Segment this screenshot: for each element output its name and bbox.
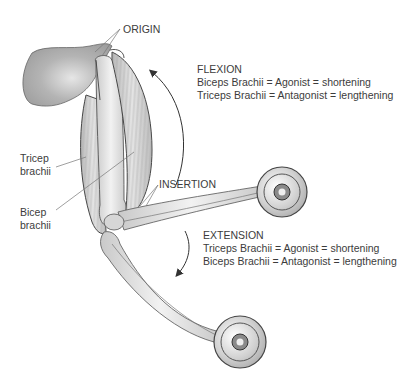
tricep-label-line2: brachii xyxy=(20,165,51,178)
extension-description: EXTENSION Triceps Brachii = Agonist = sh… xyxy=(203,229,397,268)
extension-line1: Triceps Brachii = Agonist = shortening xyxy=(203,242,397,255)
weight-disc-extended xyxy=(214,316,266,368)
bicep-label-line2: brachii xyxy=(20,219,51,232)
tricep-label-line1: Tricep xyxy=(20,152,51,165)
arm-diagram xyxy=(0,0,412,391)
extension-title: EXTENSION xyxy=(203,229,397,242)
flexion-arrow xyxy=(152,72,184,185)
insertion-label: INSERTION xyxy=(159,178,216,191)
flexion-line1: Biceps Brachii = Agonist = shortening xyxy=(197,76,393,89)
weight-disc-flexed xyxy=(257,167,307,217)
tricep-label: Tricep brachii xyxy=(20,152,51,177)
extension-arrow xyxy=(178,231,189,274)
bicep-label: Bicep brachii xyxy=(20,206,51,231)
flexion-line2: Triceps Brachii = Antagonist = lengtheni… xyxy=(197,89,393,102)
flexion-description: FLEXION Biceps Brachii = Agonist = short… xyxy=(197,63,393,102)
origin-label: ORIGIN xyxy=(123,23,160,36)
extension-line2: Biceps Brachii = Antagonist = lengthenin… xyxy=(203,255,397,268)
flexion-title: FLEXION xyxy=(197,63,393,76)
bicep-label-line1: Bicep xyxy=(20,206,51,219)
